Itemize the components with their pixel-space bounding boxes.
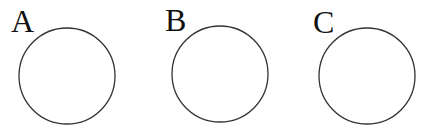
circle-group-c: C xyxy=(313,4,415,124)
label-a: A xyxy=(11,3,34,39)
label-b: B xyxy=(165,2,186,38)
circle-a xyxy=(19,28,115,124)
circle-group-b: B xyxy=(165,2,268,122)
diagram-canvas: A B C xyxy=(0,0,427,137)
label-c: C xyxy=(313,4,334,40)
circle-c xyxy=(319,28,415,124)
circle-b xyxy=(172,26,268,122)
circle-group-a: A xyxy=(11,3,115,124)
